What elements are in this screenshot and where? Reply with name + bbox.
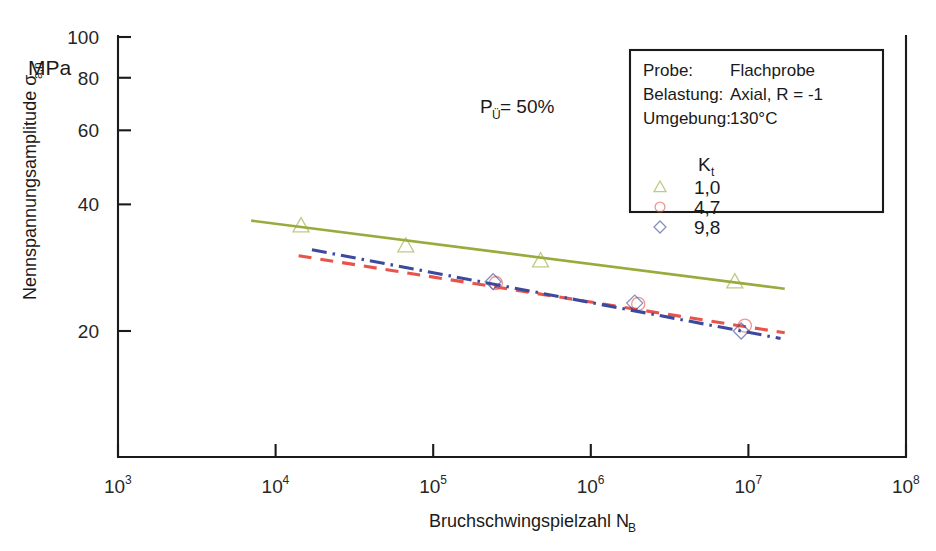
svg-text:7: 7 <box>755 473 762 487</box>
svg-text:10: 10 <box>892 476 913 497</box>
y-axis-title-sub: a,n <box>31 62 45 79</box>
survival-probability-annotation: P Ü = 50% <box>480 96 555 122</box>
x-axis-ticks <box>118 444 906 457</box>
triangle-marker <box>533 253 549 267</box>
legend-value-umgebung: 130°C <box>730 109 777 128</box>
annotation-p-value: = 50% <box>500 96 555 117</box>
svg-text:4: 4 <box>283 473 290 487</box>
svg-text:6: 6 <box>598 473 605 487</box>
y-axis-tick-labels: 20406080100 <box>67 27 99 342</box>
legend-value-probe: Flachprobe <box>730 61 815 80</box>
y-axis-title: Nennspannungsamplitude σ a,n <box>20 62 45 300</box>
x-tick-label-1e3: 103 <box>104 473 132 497</box>
svg-text:Nennspannungsamplitude σ: Nennspannungsamplitude σ <box>20 75 40 300</box>
sn-curve-chart: 20406080100 103104105106107108 MPa Nenns… <box>0 0 936 551</box>
diamond-marker <box>654 221 666 233</box>
x-axis-tick-labels: 103104105106107108 <box>104 473 920 497</box>
svg-text:10: 10 <box>104 476 125 497</box>
y-tick-label-60: 60 <box>78 120 99 141</box>
legend-label-belastung: Belastung: <box>643 85 723 104</box>
y-tick-label-20: 20 <box>78 321 99 342</box>
svg-text:10: 10 <box>262 476 283 497</box>
legend-value-belastung: Axial, R = -1 <box>730 85 823 104</box>
triangle-marker <box>293 218 309 232</box>
y-tick-label-80: 80 <box>78 68 99 89</box>
legend-label-umgebung: Umgebung: <box>643 109 731 128</box>
legend-kt-header: K <box>698 154 711 175</box>
svg-text:5: 5 <box>440 473 447 487</box>
x-tick-label-1e4: 104 <box>262 473 290 497</box>
y-axis-title-main: Nennspannungsamplitude σ <box>20 75 40 300</box>
x-tick-label-1e8: 108 <box>892 473 920 497</box>
legend: Probe: Flachprobe Belastung: Axial, R = … <box>630 50 883 238</box>
legend-entry-value: 4,7 <box>694 197 720 218</box>
svg-text:8: 8 <box>913 473 920 487</box>
x-axis-title-main: Bruchschwingspielzahl N <box>429 511 629 531</box>
svg-text:10: 10 <box>734 476 755 497</box>
x-axis-title-sub: B <box>628 521 636 535</box>
x-tick-label-1e6: 106 <box>577 473 605 497</box>
legend-entry-kt-9-8: 9,8 <box>654 217 720 238</box>
annotation-p-symbol: P <box>480 96 493 117</box>
svg-text:10: 10 <box>419 476 440 497</box>
legend-entry-value: 9,8 <box>694 217 720 238</box>
y-tick-label-40: 40 <box>78 194 99 215</box>
legend-entry-value: 1,0 <box>694 177 720 198</box>
svg-text:10: 10 <box>577 476 598 497</box>
y-axis-ticks <box>118 37 131 331</box>
svg-text:3: 3 <box>125 473 132 487</box>
x-axis-title: Bruchschwingspielzahl N B <box>429 511 636 535</box>
legend-label-probe: Probe: <box>643 61 693 80</box>
x-tick-label-1e5: 105 <box>419 473 447 497</box>
y-tick-label-100: 100 <box>67 27 99 48</box>
chart-root: 20406080100 103104105106107108 MPa Nenns… <box>0 0 936 551</box>
x-tick-label-1e7: 107 <box>734 473 762 497</box>
